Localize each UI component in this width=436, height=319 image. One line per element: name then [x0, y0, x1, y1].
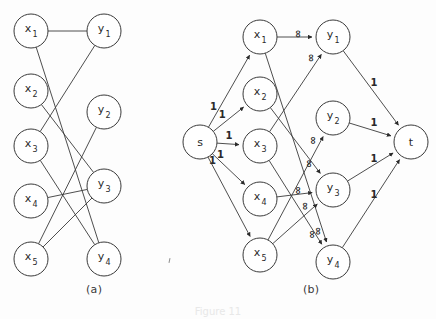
node-label-x3: x — [25, 137, 32, 150]
node-label-s: s — [197, 136, 203, 149]
edge-x4-y3 — [48, 189, 88, 197]
node-y3: y3 — [316, 173, 350, 207]
panel-b-caption: (b) — [303, 283, 319, 296]
capacity-label-x5-y2: ∞ — [307, 136, 318, 144]
node-label-t: t — [409, 136, 414, 149]
node-x4: x4 — [243, 182, 277, 216]
node-subscript-y4: 4 — [105, 258, 110, 267]
figure-container: x1x2x3x4x5y1y2y3y4 11111∞∞∞∞∞∞∞∞1111 sx1… — [0, 0, 436, 319]
capacity-label-s-x3: 1 — [225, 130, 232, 141]
capacity-label-x3-y4: ∞ — [306, 230, 317, 238]
edge-s-x3 — [217, 143, 239, 144]
node-label-y2: y — [98, 103, 105, 116]
node-x5: x5 — [14, 242, 48, 276]
node-subscript-x2: 2 — [261, 93, 266, 102]
node-x3: x3 — [243, 129, 277, 163]
node-label-y4: y — [98, 250, 105, 263]
node-s: s — [183, 125, 217, 159]
edge-x2-y3 — [41, 104, 93, 172]
node-label-y1: y — [98, 22, 105, 35]
node-subscript-x5: 5 — [32, 258, 37, 267]
node-label-x5: x — [25, 250, 32, 263]
node-y1: y1 — [316, 20, 350, 54]
capacity-label-x1-y1: ∞ — [292, 30, 303, 38]
capacity-label-s-x1: 1 — [210, 101, 217, 112]
capacity-label-x3-y1: ∞ — [305, 54, 316, 62]
node-y4: y4 — [87, 242, 121, 276]
node-label-y3: y — [98, 177, 105, 190]
node-label-x4: x — [254, 190, 261, 203]
capacity-label-s-x5: 1 — [209, 155, 216, 166]
panel-b-edges — [208, 37, 400, 248]
capacity-label-y3-t: 1 — [371, 153, 378, 164]
edge-x5-y3 — [43, 198, 92, 247]
node-x2: x2 — [243, 77, 277, 111]
capacity-label-x5-y3: ∞ — [299, 202, 310, 210]
node-subscript-y3: 3 — [334, 189, 339, 198]
node-subscript-x4: 4 — [32, 200, 37, 209]
node-label-x4: x — [25, 192, 32, 205]
node-subscript-y3: 3 — [105, 185, 110, 194]
node-label-y3: y — [327, 181, 334, 194]
node-label-x5: x — [254, 246, 261, 259]
capacity-label-y2-t: 1 — [371, 117, 378, 128]
edge-x3-y1 — [40, 45, 95, 131]
node-subscript-y1: 1 — [334, 36, 339, 45]
node-x5: x5 — [243, 238, 277, 272]
node-label-y1: y — [327, 28, 334, 41]
node-label-y4: y — [327, 253, 334, 266]
node-t: t — [394, 125, 428, 159]
node-subscript-x5: 5 — [261, 254, 266, 263]
node-subscript-y2: 2 — [105, 111, 110, 120]
node-subscript-y1: 1 — [105, 30, 110, 39]
node-subscript-x2: 2 — [32, 90, 37, 99]
node-label-x2: x — [25, 82, 32, 95]
node-subscript-x4: 4 — [261, 198, 266, 207]
node-subscript-x3: 3 — [32, 145, 37, 154]
node-x1: x1 — [243, 20, 277, 54]
node-y1: y1 — [87, 14, 121, 48]
node-subscript-y4: 4 — [334, 261, 339, 270]
capacity-label-x2-y3: ∞ — [303, 160, 314, 168]
capacity-label-y4-t: 1 — [371, 189, 378, 200]
node-subscript-x3: 3 — [261, 145, 266, 154]
capacity-label-s-x2: 1 — [219, 109, 226, 120]
capacity-label-y1-t: 1 — [371, 77, 378, 88]
node-label-x3: x — [254, 137, 261, 150]
node-y2: y2 — [87, 95, 121, 129]
figure-caption: Figure 11 — [0, 306, 436, 317]
panel-a-caption: (a) — [86, 283, 102, 296]
node-label-x1: x — [254, 28, 261, 41]
node-label-x1: x — [25, 22, 32, 35]
node-subscript-y2: 2 — [334, 117, 339, 126]
node-x4: x4 — [14, 184, 48, 218]
node-y4: y4 — [316, 245, 350, 279]
node-x1: x1 — [14, 14, 48, 48]
node-y2: y2 — [316, 101, 350, 135]
node-label-y2: y — [327, 109, 334, 122]
node-subscript-x1: 1 — [261, 36, 266, 45]
edge-y4-t — [342, 160, 399, 248]
capacity-label-x4-y3: ∞ — [292, 186, 303, 194]
capacity-label-s-x4: 1 — [217, 149, 224, 160]
edge-y1-t — [343, 51, 398, 125]
node-subscript-x1: 1 — [32, 30, 37, 39]
node-x3: x3 — [14, 129, 48, 163]
node-label-x2: x — [254, 85, 261, 98]
node-x2: x2 — [14, 74, 48, 108]
figure-svg: x1x2x3x4x5y1y2y3y4 11111∞∞∞∞∞∞∞∞1111 sx1… — [0, 0, 436, 319]
node-y3: y3 — [87, 169, 121, 203]
